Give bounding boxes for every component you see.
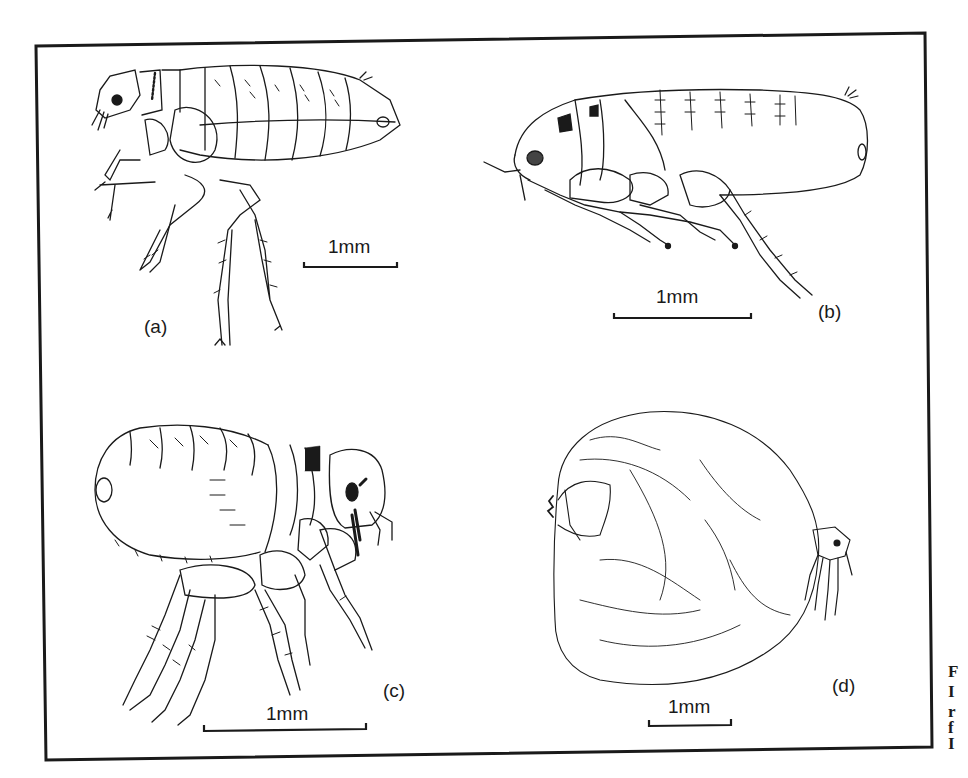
caption-fragment: I [948,735,955,752]
panel-label-c: (c) [383,680,405,702]
scale-label-d: 1mm [668,696,710,718]
scale-bar-a [304,262,397,267]
flea-drawing-b [484,87,868,298]
figure-canvas [0,0,968,778]
panel-label-a: (a) [144,316,167,338]
caption-fragment: I [948,683,955,700]
flea-drawing-d [548,412,852,685]
flea-drawing-a [92,65,400,345]
caption-fragment: F [948,663,958,680]
scale-bar-b [614,313,751,318]
scale-label-a: 1mm [328,236,370,258]
panel-label-b: (b) [818,301,841,323]
flea-drawing-c [95,425,392,725]
scale-label-c: 1mm [266,703,308,725]
panel-label-d: (d) [832,675,855,697]
scale-bar-d [649,719,731,726]
scale-label-b: 1mm [656,286,698,308]
